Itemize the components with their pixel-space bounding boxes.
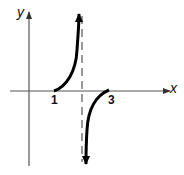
graph-svg: [0, 0, 184, 175]
left-branch-curve: [54, 14, 79, 91]
tick-label-3: 3: [108, 93, 115, 107]
x-axis-label: x: [170, 80, 177, 96]
tick-label-1: 1: [51, 93, 58, 107]
y-axis-label: y: [17, 4, 24, 20]
function-graph: y x 1 3: [0, 0, 184, 175]
right-branch-curve: [86, 90, 109, 164]
